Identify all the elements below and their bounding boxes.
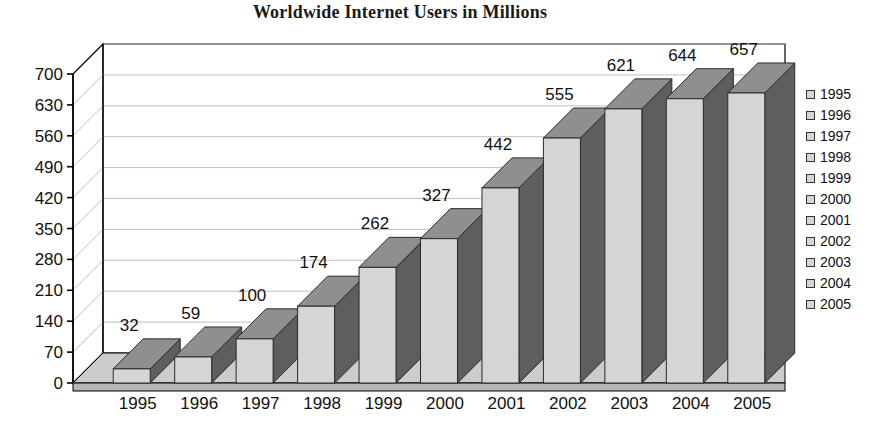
bar-group[interactable] xyxy=(666,69,733,383)
legend-swatch-icon xyxy=(806,300,815,309)
legend-label: 1998 xyxy=(820,147,851,168)
legend-label: 2005 xyxy=(820,294,851,315)
plot-floor-lip xyxy=(73,383,785,391)
x-axis-tick-label: 1997 xyxy=(242,394,280,413)
bar-value-label: 442 xyxy=(484,135,512,154)
y-axis-tick-label: 630 xyxy=(35,96,63,115)
x-axis-tick-label: 1995 xyxy=(119,394,157,413)
x-axis-tick-label: 1999 xyxy=(365,394,403,413)
chart-container: Worldwide Internet Users in Millions 070… xyxy=(0,0,895,426)
legend-label: 2002 xyxy=(820,231,851,252)
legend-label: 1997 xyxy=(820,126,851,147)
legend-swatch-icon xyxy=(806,174,815,183)
legend-item[interactable]: 2001 xyxy=(806,210,892,231)
legend-swatch-icon xyxy=(806,153,815,162)
bar-front-face xyxy=(298,306,335,383)
legend-swatch-icon xyxy=(806,279,815,288)
legend-label: 1996 xyxy=(820,105,851,126)
bar-front-face xyxy=(113,369,150,383)
legend-swatch-icon xyxy=(806,111,815,120)
y-axis-tick-label: 0 xyxy=(54,374,63,393)
bar-group[interactable] xyxy=(482,158,549,383)
bar-front-face xyxy=(728,93,765,383)
bar-front-face xyxy=(666,99,703,383)
bar-value-label: 327 xyxy=(422,186,450,205)
x-axis-tick-label: 2005 xyxy=(733,394,771,413)
bar-front-face xyxy=(236,339,273,383)
legend-swatch-icon xyxy=(806,216,815,225)
gridline-depth-connector xyxy=(73,260,103,290)
chart-legend: 1995199619971998199920002001200220032004… xyxy=(806,84,892,315)
legend-item[interactable]: 2002 xyxy=(806,231,892,252)
bar-front-face xyxy=(421,239,458,383)
bar-value-label: 59 xyxy=(181,304,200,323)
gridline-depth-connector xyxy=(73,322,103,352)
legend-item[interactable]: 1997 xyxy=(806,126,892,147)
legend-swatch-icon xyxy=(806,258,815,267)
x-axis-tick-label: 1998 xyxy=(303,394,341,413)
legend-swatch-icon xyxy=(806,132,815,141)
gridline-depth-connector xyxy=(73,137,103,167)
bar-value-label: 174 xyxy=(299,253,327,272)
bar-group[interactable] xyxy=(728,63,795,383)
x-axis-tick-label: 2004 xyxy=(672,394,710,413)
y-axis-tick-label: 350 xyxy=(35,220,63,239)
y-axis-tick-label: 420 xyxy=(35,189,63,208)
bar-value-label: 32 xyxy=(120,316,139,335)
x-axis-tick-label: 2000 xyxy=(426,394,464,413)
legend-item[interactable]: 2004 xyxy=(806,273,892,294)
legend-label: 2004 xyxy=(820,273,851,294)
bar-group[interactable] xyxy=(421,209,488,383)
legend-item[interactable]: 2005 xyxy=(806,294,892,315)
legend-label: 1995 xyxy=(820,84,851,105)
gridline-depth-connector xyxy=(73,199,103,229)
y-axis-tick-label: 560 xyxy=(35,127,63,146)
legend-item[interactable]: 2003 xyxy=(806,252,892,273)
legend-swatch-icon xyxy=(806,237,815,246)
bar-front-face xyxy=(175,357,212,383)
y-axis-tick-label: 490 xyxy=(35,158,63,177)
legend-swatch-icon xyxy=(806,90,815,99)
bar-value-label: 644 xyxy=(668,46,696,65)
bar-value-label: 621 xyxy=(607,56,635,75)
legend-swatch-icon xyxy=(806,195,815,204)
legend-item[interactable]: 2000 xyxy=(806,189,892,210)
legend-item[interactable]: 1995 xyxy=(806,84,892,105)
gridline-depth-connector xyxy=(73,75,103,105)
bar-front-face xyxy=(543,138,580,383)
bar-front-face xyxy=(359,267,396,383)
y-axis-tick-label: 140 xyxy=(35,312,63,331)
gridline-depth-connector xyxy=(73,106,103,136)
bar-chart-plot: 0701402102803504204905606307003259100174… xyxy=(0,0,895,426)
y-axis-tick-label: 280 xyxy=(35,250,63,269)
bar-value-label: 657 xyxy=(730,40,758,59)
gridline-depth-connector xyxy=(73,168,103,198)
y-axis-tick-label: 700 xyxy=(35,65,63,84)
legend-label: 2001 xyxy=(820,210,851,231)
legend-label: 2000 xyxy=(820,189,851,210)
gridline-depth-connector xyxy=(73,229,103,259)
bar-front-face xyxy=(482,188,519,383)
y-axis-tick-label: 210 xyxy=(35,281,63,300)
legend-label: 2003 xyxy=(820,252,851,273)
bar-value-label: 262 xyxy=(361,214,389,233)
bar-group[interactable] xyxy=(359,237,426,383)
legend-item[interactable]: 1999 xyxy=(806,168,892,189)
x-axis-tick-label: 1996 xyxy=(180,394,218,413)
x-axis-tick-label: 2002 xyxy=(549,394,587,413)
x-axis-tick-label: 2003 xyxy=(610,394,648,413)
bar-value-label: 100 xyxy=(238,286,266,305)
bar-group[interactable] xyxy=(543,108,610,383)
bar-front-face xyxy=(605,109,642,383)
legend-label: 1999 xyxy=(820,168,851,189)
legend-item[interactable]: 1996 xyxy=(806,105,892,126)
legend-item[interactable]: 1998 xyxy=(806,147,892,168)
x-axis-tick-label: 2001 xyxy=(488,394,526,413)
gridline-depth-connector xyxy=(73,291,103,321)
bar-value-label: 555 xyxy=(545,85,573,104)
bar-group[interactable] xyxy=(605,79,672,383)
bar-side-face xyxy=(765,63,795,383)
y-axis-tick-label: 70 xyxy=(44,343,63,362)
